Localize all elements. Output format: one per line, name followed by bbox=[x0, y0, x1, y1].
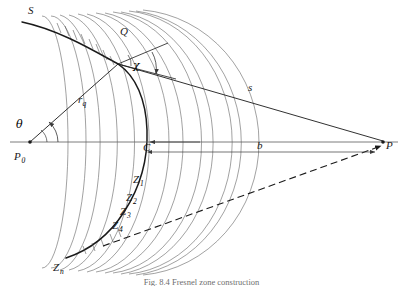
svg-text:P: P bbox=[13, 150, 21, 162]
svg-text:n: n bbox=[60, 267, 64, 276]
figure-caption: Fig. 8.4 Fresnel zone construction bbox=[0, 277, 403, 286]
svg-text:4: 4 bbox=[119, 225, 123, 234]
label-field-point-p: P bbox=[385, 139, 393, 151]
label-wavefront-s: S bbox=[28, 4, 34, 16]
svg-text:Z: Z bbox=[112, 219, 119, 231]
label-point-q: Q bbox=[120, 25, 128, 37]
svg-text:Z: Z bbox=[53, 261, 60, 273]
field-point-dot bbox=[381, 140, 385, 144]
svg-text:Z: Z bbox=[133, 173, 140, 185]
svg-text:Z: Z bbox=[126, 191, 133, 203]
svg-text:3: 3 bbox=[126, 211, 131, 220]
label-distance-b: b bbox=[257, 139, 263, 151]
svg-text:Z: Z bbox=[120, 205, 127, 217]
svg-text:2: 2 bbox=[133, 197, 137, 206]
svg-text:0: 0 bbox=[22, 156, 26, 165]
label-distance-s: s bbox=[248, 81, 252, 93]
label-angle-theta: θ bbox=[16, 118, 23, 131]
fresnel-zone-figure: S Q χ θ P 0 C P r q s b Z 1 Z 2 Z 3 Z 4 … bbox=[0, 0, 403, 286]
svg-text:q: q bbox=[83, 99, 87, 108]
label-center-c: C bbox=[143, 141, 151, 153]
source-point-dot bbox=[28, 140, 32, 144]
svg-text:1: 1 bbox=[140, 179, 144, 188]
label-angle-chi: χ bbox=[132, 59, 141, 72]
